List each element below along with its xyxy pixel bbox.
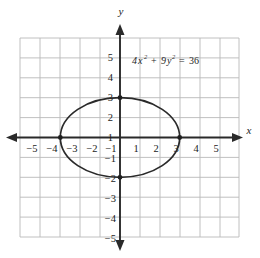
equation-coef-a: 4 [132, 55, 137, 66]
equation-var-x: x [137, 55, 143, 66]
point-top-vertex [118, 95, 123, 100]
y-tick-label: −1 [105, 153, 116, 164]
x-tick-label: 1 [133, 143, 138, 154]
point-right-vertex [177, 135, 182, 140]
x-tick-label: −5 [26, 143, 37, 154]
x-tick-label: 2 [153, 143, 158, 154]
x-tick-label: 4 [193, 143, 199, 154]
equation-exp-y: 2 [172, 53, 176, 60]
y-tick-label: −2 [105, 173, 116, 184]
point-left-vertex [58, 135, 63, 140]
equation-plus: + [151, 55, 157, 66]
y-tick-label: −4 [105, 213, 117, 224]
y-axis-arrow-down [116, 240, 125, 251]
equation-rhs: 36 [189, 55, 199, 66]
coordinate-plane: x y −5 −4 −3 −2 −1 1 2 3 4 5 5 4 3 2 1 −… [0, 0, 260, 258]
x-tick-labels: −5 −4 −3 −2 −1 1 2 3 4 5 [26, 143, 218, 154]
equation-equals: = [179, 55, 185, 66]
point-bottom-vertex [118, 175, 123, 180]
x-axis-arrow-right [232, 133, 243, 142]
x-tick-label: −2 [86, 143, 97, 154]
y-tick-label: 2 [108, 112, 113, 123]
x-axis-label: x [246, 124, 252, 136]
x-tick-label: −3 [66, 143, 77, 154]
x-tick-label: 5 [213, 143, 218, 154]
equation-coef-b: 9 [161, 55, 166, 66]
x-tick-label: −4 [46, 143, 58, 154]
x-axis [6, 133, 243, 142]
y-tick-label: −5 [105, 233, 116, 244]
equation-annotation: 4 x 2 + 9 y 2 = 36 [132, 53, 199, 66]
y-axis-arrow-up [116, 24, 125, 35]
y-tick-label: −3 [105, 193, 116, 204]
y-tick-label: 4 [108, 72, 114, 83]
equation-exp-x: 2 [144, 53, 148, 60]
y-tick-label: 1 [108, 132, 113, 143]
x-axis-arrow-left [6, 133, 17, 142]
y-tick-label: 5 [108, 52, 113, 63]
graph-figure: x y −5 −4 −3 −2 −1 1 2 3 4 5 5 4 3 2 1 −… [0, 0, 260, 258]
y-axis-label: y [118, 5, 124, 17]
